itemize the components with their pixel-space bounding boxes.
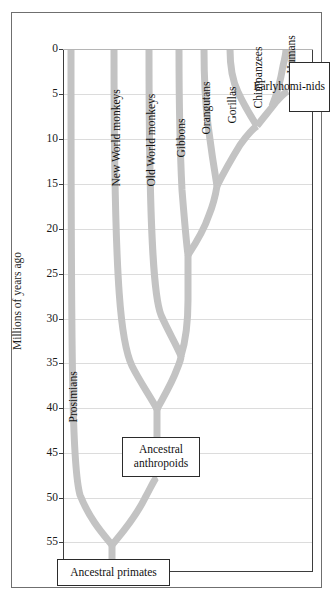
tip-label-old-world-monkeys: Old World monkeys <box>146 94 158 187</box>
y-axis-tick-labels: 0 5 10 15 20 25 30 35 40 45 50 55 <box>33 0 58 603</box>
branch-great-ape-stem <box>188 186 217 255</box>
y-tick-40: 40 <box>36 402 58 414</box>
branch-anthropoid-stem <box>112 477 157 545</box>
early-hominids-line-2: homi- <box>278 80 305 94</box>
tip-label-gorillas: Gorillas <box>227 86 239 123</box>
y-tick-30: 30 <box>36 313 58 325</box>
tip-label-prosimians: Prosimians <box>68 371 80 422</box>
branch-ape-stem <box>181 255 188 356</box>
node-box-early-hominids: Early homi- nids <box>289 62 330 112</box>
y-tick-20: 20 <box>36 223 58 235</box>
node-box-ancestral-anthropoids: Ancestral anthropoids <box>122 437 200 477</box>
tip-label-chimpanzees: Chimpanzees <box>253 47 265 109</box>
axis-ticks <box>59 50 63 543</box>
ancestral-anthropoids-line-2: anthropoids <box>134 457 188 469</box>
ancestral-anthropoids-line-1: Ancestral <box>139 443 183 455</box>
tip-label-new-world-monkeys: New World monkeys <box>111 89 123 186</box>
y-tick-15: 15 <box>36 178 58 190</box>
node-box-ancestral-primates: Ancestral primates <box>57 559 170 586</box>
y-tick-55: 55 <box>36 536 58 548</box>
y-tick-50: 50 <box>36 492 58 504</box>
early-hominids-line-1: Early <box>253 80 278 94</box>
y-tick-35: 35 <box>36 357 58 369</box>
y-axis-title: Millions of years ago <box>11 221 23 381</box>
y-tick-45: 45 <box>36 447 58 459</box>
branch-african-ape-stem <box>217 126 257 186</box>
y-tick-5: 5 <box>36 88 58 100</box>
y-tick-10: 10 <box>36 133 58 145</box>
tip-label-gibbons: Gibbons <box>176 119 188 158</box>
y-tick-0: 0 <box>36 43 58 55</box>
early-hominids-line-3: nids <box>306 80 325 94</box>
y-tick-25: 25 <box>36 268 58 280</box>
branch-prosimians <box>71 49 112 545</box>
tip-label-orangutans: Orangutans <box>201 81 213 134</box>
ancestral-primates-line-1: Ancestral primates <box>70 566 157 580</box>
primate-phylogeny-figure: 0 5 10 15 20 25 30 35 40 45 50 55 Millio… <box>0 0 336 603</box>
